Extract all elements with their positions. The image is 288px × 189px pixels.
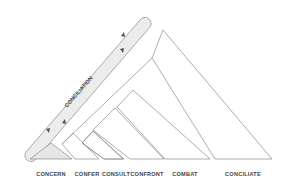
stage-label-consult: CONSULT [102, 171, 130, 177]
diagram-shapes: CONCILIATION [0, 0, 288, 189]
conflict-escalation-diagram: CONCILIATION CONCERN CONFER CONSULT CONF… [0, 0, 288, 189]
stage-label-confer: CONFER [75, 171, 100, 177]
confer-shape [62, 133, 99, 159]
stage-label-concern: CONCERN [36, 171, 66, 177]
arrow-up-icon [121, 32, 125, 37]
stage-label-conciliate: CONCILIATE [225, 171, 261, 177]
stage-label-combat: COMBAT [172, 171, 197, 177]
stage-label-confront: CONFRONT [130, 171, 163, 177]
